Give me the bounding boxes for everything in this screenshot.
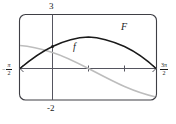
curve-label-F: F bbox=[121, 22, 127, 32]
x-max-label: 3π 2 bbox=[160, 62, 168, 76]
x-max-fraction: 3π 2 bbox=[160, 62, 168, 76]
graph-figure: 3 -2 F f − π 2 3π 2 bbox=[0, 0, 176, 124]
plot-frame bbox=[20, 15, 157, 101]
x-min-fraction: π 2 bbox=[6, 62, 12, 76]
f-curve-marker-dot bbox=[51, 45, 54, 48]
x-min-label: − π 2 bbox=[2, 62, 12, 76]
x-min-numerator: π bbox=[6, 62, 11, 68]
curve-label-f: f bbox=[73, 42, 76, 52]
x-min-minus-sign: − bbox=[2, 66, 5, 72]
y-min-label: -2 bbox=[47, 104, 55, 113]
plot-canvas bbox=[0, 0, 176, 124]
x-max-numerator: 3π bbox=[160, 62, 168, 68]
x-max-denominator: 2 bbox=[163, 70, 166, 76]
x-min-denominator: 2 bbox=[7, 70, 10, 76]
y-max-label: 3 bbox=[49, 2, 54, 11]
